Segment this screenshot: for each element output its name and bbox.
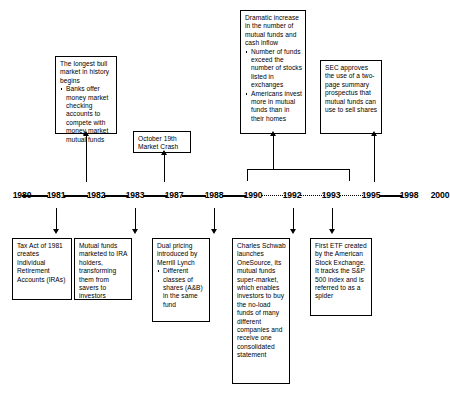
axis-year-1990: 1990 <box>244 189 263 201</box>
event-box-first-etf: First ETF created by the American Stock … <box>310 238 372 316</box>
event-box-bull-market: The longest bull market in history begin… <box>55 56 117 134</box>
arrow-up-bull-market <box>83 131 89 136</box>
event-heading: First ETF created by the American Stock … <box>315 242 368 301</box>
axis-year-1981: 1981 <box>47 189 66 201</box>
axis-year-1998: 1998 <box>400 189 419 201</box>
connector-line-first-etf <box>332 208 333 231</box>
axis-year-1992: 1992 <box>283 189 302 201</box>
event-heading: Tax Act of 1981 creates Individual Retir… <box>17 242 68 284</box>
arrow-down-dual-pricing <box>211 229 217 234</box>
event-heading: SEC approves the use of a two-page summa… <box>325 64 378 114</box>
connector-line-bull-market <box>86 134 87 182</box>
axis-segment-1987-1988 <box>182 195 206 197</box>
connector-line-tax-act <box>56 208 57 231</box>
event-box-sec-prospectus: SEC approves the use of a two-page summa… <box>320 60 382 134</box>
axis-year-1982: 1982 <box>87 189 106 201</box>
connector-line-dual-pricing <box>214 208 215 231</box>
event-bullet-list: Different classes of shares (A&B) in the… <box>157 267 206 309</box>
arrow-down-tax-act <box>53 229 59 234</box>
axis-segment-1995-1998 <box>379 195 402 197</box>
event-box-dramatic-increase: Dramatic increase in the number of mutua… <box>240 10 306 134</box>
arrow-down-first-etf <box>329 229 335 234</box>
axis-segment-1993-1995 <box>339 195 363 196</box>
arrow-up-sec-prospectus <box>371 131 377 136</box>
timeline-diagram: The longest bull market in history begin… <box>0 0 450 420</box>
event-heading: Charles Schwab launches OneSource, its m… <box>237 242 286 360</box>
arrow-up-dramatic-increase <box>270 131 276 136</box>
event-heading: Dramatic increase in the number of mutua… <box>245 14 302 48</box>
connector-line-ira-marketing <box>135 208 136 231</box>
axis-year-1983: 1983 <box>126 189 145 201</box>
arrow-down-ira-marketing <box>132 229 138 234</box>
axis-segment-1982-1983 <box>104 195 128 197</box>
event-box-ira-marketing: Mutual funds marketed to IRA holders, tr… <box>74 238 132 300</box>
event-bullet: Different classes of shares (A&B) in the… <box>157 267 206 309</box>
axis-year-1988: 1988 <box>205 189 224 201</box>
timeline-axis: 1980 1981 1982 1983 1987 1988 1990 1992 … <box>0 189 450 205</box>
event-heading: The longest bull market in history begin… <box>60 60 113 85</box>
event-box-dual-pricing: Dual pricing introduced by Merrill Lynch… <box>152 238 210 322</box>
axis-segment-1990-1992 <box>261 195 285 196</box>
connector-line-sec-prospectus <box>374 134 375 182</box>
connector-line-onesource <box>293 208 294 231</box>
axis-segment-1981-1982 <box>64 195 88 197</box>
axis-segment-1988-1990 <box>222 195 246 197</box>
axis-segment-1983-1987 <box>143 195 167 197</box>
axis-year-1987: 1987 <box>165 189 184 201</box>
event-box-tax-act: Tax Act of 1981 creates Individual Retir… <box>12 238 72 300</box>
bracket-left-tick-1990 <box>247 169 248 181</box>
event-bullet: Number of funds exceed the number of sto… <box>245 48 302 90</box>
event-box-onesource: Charles Schwab launches OneSource, its m… <box>232 238 290 384</box>
event-heading: Mutual funds marketed to IRA holders, tr… <box>79 242 128 301</box>
axis-year-1980: 1980 <box>13 189 32 201</box>
arrow-down-onesource <box>290 229 296 234</box>
connector-line-market-crash <box>164 153 165 182</box>
axis-year-1995: 1995 <box>362 189 381 201</box>
bracket-right-tick-1995 <box>349 169 350 181</box>
arrow-up-market-crash <box>161 150 167 155</box>
axis-segment-1992-1993 <box>300 195 324 196</box>
event-bullet: Americans invest more in mutual funds th… <box>245 90 302 124</box>
bracket-span-1990-1995 <box>247 169 350 170</box>
event-bullet-list: Number of funds exceed the number of sto… <box>245 48 302 124</box>
event-heading: Dual pricing introduced by Merrill Lynch <box>157 242 206 267</box>
connector-line-dramatic-increase <box>273 134 274 170</box>
axis-year-1993: 1993 <box>322 189 341 201</box>
axis-year-2000: 2000 <box>431 189 450 201</box>
